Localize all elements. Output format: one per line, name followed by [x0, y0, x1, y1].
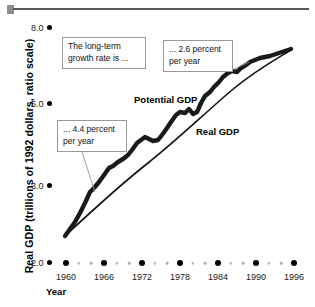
x-dot-minor	[115, 262, 118, 265]
x-dot-1984	[215, 260, 221, 266]
x-tick-label-1960: 1960	[56, 272, 76, 282]
x-tick-label-1996: 1996	[284, 272, 304, 282]
x-dot-1960	[63, 260, 69, 266]
x-tick-label-1978: 1978	[170, 272, 190, 282]
x-dot-minor	[280, 262, 283, 265]
chart-plot-area: 8.0 5.0 3.0 2.0 Potential GDP Real GDP T…	[0, 0, 315, 307]
leader-line-rate-early	[82, 152, 95, 192]
x-dot-1978	[177, 260, 183, 266]
x-dot-minor	[90, 262, 93, 265]
x-dot-minor	[229, 262, 232, 265]
x-dot-minor	[128, 262, 131, 265]
x-dot-minor	[204, 262, 207, 265]
x-dot-minor	[267, 262, 270, 265]
x-dot-1990	[253, 260, 259, 266]
x-dot-1996	[291, 260, 297, 266]
x-dot-1966	[101, 260, 107, 266]
callout-longterm-growth: The long-term growth rate is ...	[62, 37, 146, 69]
x-dot-minor	[77, 262, 80, 265]
x-dot-minor	[191, 262, 194, 265]
x-tick-label-1990: 1990	[246, 272, 266, 282]
callout-rate-late: ... 2.6 percent per year	[163, 40, 233, 72]
series-label-real-gdp: Real GDP	[196, 126, 239, 137]
x-tick-label-1984: 1984	[208, 272, 228, 282]
x-tick-label-1972: 1972	[132, 272, 152, 282]
series-label-potential-gdp: Potential GDP	[134, 94, 197, 105]
callout-rate-early: ... 4.4 percent per year	[57, 120, 127, 152]
x-dot-minor	[153, 262, 156, 265]
x-dot-minor	[166, 262, 169, 265]
x-dot-minor	[242, 262, 245, 265]
x-dot-1972	[139, 260, 145, 266]
x-tick-label-1966: 1966	[94, 272, 114, 282]
